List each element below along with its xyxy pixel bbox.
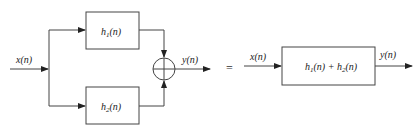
parallel-system-diagram: x(n) h1(n) h2(n) y(n) = x(n) h1(n) + h2(… bbox=[0, 0, 420, 131]
h2-to-adder-arrow bbox=[139, 81, 164, 106]
right-output-label: y(n) bbox=[379, 49, 397, 61]
h1-to-adder-arrow bbox=[139, 30, 164, 57]
right-input-label: x(n) bbox=[249, 51, 267, 63]
output-label: y(n) bbox=[181, 54, 199, 66]
input-label: x(n) bbox=[15, 54, 33, 66]
equals-sign: = bbox=[226, 61, 233, 75]
